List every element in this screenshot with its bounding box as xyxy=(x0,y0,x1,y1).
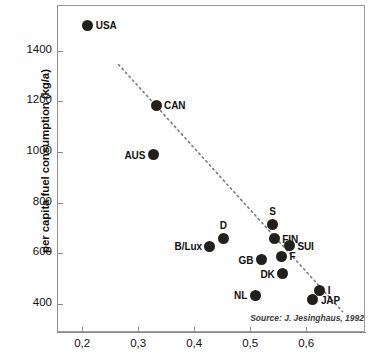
y-tick-label: 1000 xyxy=(12,144,52,156)
y-tick-mark xyxy=(58,253,63,254)
data-point-label-usa: USA xyxy=(96,20,117,31)
data-point-label-gb: GB xyxy=(239,254,254,265)
x-tick-label: 0,3 xyxy=(118,337,158,349)
data-point-f[interactable] xyxy=(276,251,287,262)
data-point-label-sui: SUI xyxy=(297,240,313,251)
plot-frame xyxy=(57,5,365,332)
y-axis-title: per capita fuel consumption (kg/a) xyxy=(39,21,51,301)
y-tick-label: 1400 xyxy=(12,43,52,55)
y-tick-label: 1200 xyxy=(12,93,52,105)
x-tick-mark xyxy=(306,327,307,332)
y-tick-mark xyxy=(58,304,63,305)
data-point-usa[interactable] xyxy=(82,20,93,31)
source-note: Source: J. Jesinghaus, 1992 xyxy=(250,313,364,323)
data-point-can[interactable] xyxy=(151,100,162,111)
scatter-chart: per capita fuel consumption (kg/a) 14001… xyxy=(0,0,388,364)
y-axis-line xyxy=(57,5,58,333)
data-point-nl[interactable] xyxy=(250,290,261,301)
y-tick-label: 400 xyxy=(12,296,52,308)
x-tick-label: 0,4 xyxy=(174,337,214,349)
x-axis-line xyxy=(57,332,366,333)
data-point-label-d: D xyxy=(220,220,227,231)
y-tick-label: 800 xyxy=(12,195,52,207)
y-tick-mark xyxy=(58,203,63,204)
data-point-label-dk: DK xyxy=(260,268,274,279)
y-tick-mark xyxy=(58,101,63,102)
x-tick-mark xyxy=(194,327,195,332)
data-point-label-jap: JAP xyxy=(321,294,340,305)
data-point-label-aus: AUS xyxy=(124,149,145,160)
data-point-d[interactable] xyxy=(218,233,229,244)
data-point-s[interactable] xyxy=(267,219,278,230)
x-tick-mark xyxy=(250,327,251,332)
data-point-fin[interactable] xyxy=(269,233,280,244)
y-tick-mark xyxy=(58,51,63,52)
y-tick-label: 600 xyxy=(12,245,52,257)
data-point-label-f: F xyxy=(290,251,296,262)
x-tick-label: 0,6 xyxy=(286,337,326,349)
data-point-label-can: CAN xyxy=(164,100,185,111)
data-point-label-s: S xyxy=(269,206,276,217)
x-tick-mark xyxy=(82,327,83,332)
y-tick-mark xyxy=(58,152,63,153)
data-point-aus[interactable] xyxy=(148,149,159,160)
x-tick-mark xyxy=(138,327,139,332)
x-tick-label: 0,2 xyxy=(62,337,102,349)
data-point-label-nl: NL xyxy=(234,290,247,301)
data-point-label-b-lux: B/Lux xyxy=(175,241,202,252)
x-tick-label: 0,5 xyxy=(230,337,270,349)
